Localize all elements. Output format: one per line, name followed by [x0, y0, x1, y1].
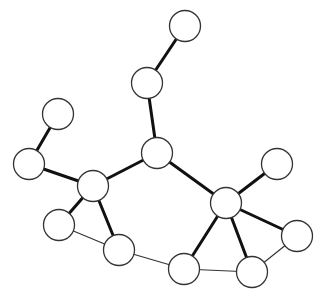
node-n5: [142, 138, 173, 169]
node-n4: [14, 149, 45, 180]
node-n8: [211, 188, 242, 219]
node-n9: [44, 210, 75, 241]
node-n6: [78, 171, 109, 202]
node-n11: [104, 235, 135, 266]
node-n12: [169, 254, 200, 285]
node-n7: [262, 149, 293, 180]
node-n2: [132, 68, 163, 99]
node-n1: [170, 11, 201, 42]
node-n3: [43, 99, 74, 130]
node-n10: [282, 221, 313, 252]
node-n13: [237, 257, 268, 288]
graph-diagram: [0, 0, 321, 297]
